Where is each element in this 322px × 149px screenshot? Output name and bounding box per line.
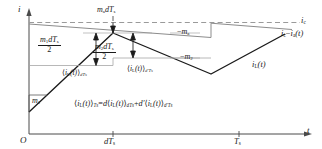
ic-curve-label: ic bbox=[301, 16, 306, 26]
iL-label-suffix: (t) bbox=[258, 59, 266, 69]
waveform-figure: i t O dTs Ts ic ic−ia(t) iL(t) m1 −m2 −m… bbox=[0, 0, 322, 149]
avg-dprimeTs-label: ⟨iL(t)⟩d′Ts bbox=[127, 65, 153, 74]
slope-ma-label: −ma bbox=[177, 28, 190, 37]
slope-m2-label: −m2 bbox=[180, 53, 193, 62]
ripple2-fraction: m2dTs 2 bbox=[93, 43, 116, 61]
slope-m2-sub: 2 bbox=[190, 56, 192, 61]
slope-m1-label: m1 bbox=[32, 97, 40, 106]
ripple1-denominator: 2 bbox=[38, 46, 61, 54]
y-axis-label: i bbox=[18, 5, 21, 14]
ripple1-fraction: m1dTs 2 bbox=[38, 36, 61, 54]
ripple2-denominator: 2 bbox=[93, 53, 116, 61]
ramp-offset-arrow bbox=[111, 23, 116, 34]
eq-term2-sub-s: s bbox=[170, 102, 172, 108]
ic-label-sub: c bbox=[303, 19, 305, 25]
iL-curve-label: iL(t) bbox=[252, 60, 266, 70]
ic-minus-ia-label: ic−ia(t) bbox=[281, 29, 303, 39]
ripple2-T-sub: s bbox=[112, 46, 114, 51]
ripple2-fraction-label: m2dTs 2 bbox=[93, 43, 116, 61]
x-tick-Ts: Ts bbox=[234, 137, 241, 147]
ic-minus-ia-p5: (t) bbox=[295, 28, 303, 38]
slope-m1-sub: 1 bbox=[38, 100, 40, 105]
avg-dpTs-sub-s: s bbox=[151, 68, 153, 73]
x-tick-dTs-main: dT bbox=[104, 136, 113, 146]
avg-dTs-label: ⟨iL(t)⟩dTs bbox=[62, 69, 87, 78]
ripple2-dimension-arrow bbox=[131, 33, 136, 58]
eq-term2-t: (t) bbox=[153, 99, 161, 108]
ramp-offset-label: madTs bbox=[97, 6, 115, 15]
x-axis-label: t bbox=[307, 126, 310, 135]
avg-dTs-sub-s: s bbox=[85, 72, 87, 77]
ramp-offset-T-sub: s bbox=[113, 9, 115, 14]
slope-ma-sub: a bbox=[187, 31, 189, 36]
waveform-graphics bbox=[0, 0, 322, 149]
average-equation: ⟨iL(t)⟩Ts=d⟨iL(t)⟩dTs+d′⟨iL(t)⟩d′Ts bbox=[74, 100, 172, 109]
ripple1-T-sub: s bbox=[57, 39, 59, 44]
origin-label: O bbox=[20, 136, 27, 145]
x-tick-dTs-sub: s bbox=[113, 140, 115, 146]
x-tick-dTs: dTs bbox=[104, 137, 115, 147]
x-tick-Ts-sub: s bbox=[239, 140, 241, 146]
ic-minus-ia-curve bbox=[29, 23, 292, 37]
ripple1-fraction-label: m1dTs 2 bbox=[38, 36, 61, 54]
